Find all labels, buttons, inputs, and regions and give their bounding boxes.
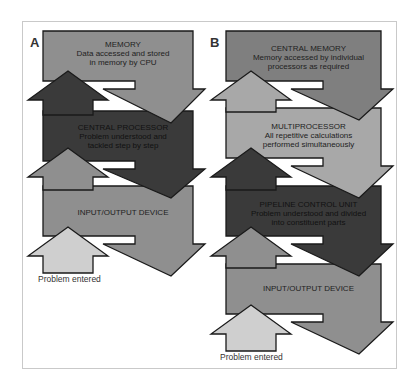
block-description: Problem understood and divided <box>251 209 366 218</box>
panel-a <box>28 31 205 276</box>
block-label: MULTIPROCESSORAll repetitive calculation… <box>263 122 355 149</box>
block-description: performed simultaneously <box>263 140 355 149</box>
block-title: MULTIPROCESSOR <box>263 122 355 131</box>
panel-b <box>211 31 393 354</box>
block-description: Data accessed and stored <box>77 49 170 58</box>
block-label: MEMORYData accessed and storedin memory … <box>77 40 170 67</box>
problem-entered-caption: Problem entered <box>38 274 101 284</box>
block-label: INPUT/OUTPUT DEVICE <box>78 208 169 217</box>
block-title: PIPELINE CONTROL UNIT <box>251 200 366 209</box>
block-description: Memory accessed by individual <box>253 53 364 62</box>
problem-entered-caption: Problem entered <box>220 352 283 362</box>
block-description: into constituent parts <box>251 218 366 227</box>
block-title: CENTRAL PROCESSOR <box>78 123 168 132</box>
block-label: PIPELINE CONTROL UNITProblem understood … <box>251 200 366 227</box>
block-description: All repetitive calculations <box>263 131 355 140</box>
block-description: Problem understood and <box>78 132 168 141</box>
block-description: processors as required <box>253 62 364 71</box>
block-title: CENTRAL MEMORY <box>253 44 364 53</box>
block-title: INPUT/OUTPUT DEVICE <box>263 284 354 293</box>
block-label: INPUT/OUTPUT DEVICE <box>263 284 354 293</box>
block-description: tackled step by step <box>78 141 168 150</box>
block-label: CENTRAL MEMORYMemory accessed by individ… <box>253 44 364 71</box>
block-title: MEMORY <box>77 40 170 49</box>
block-description: in memory by CPU <box>77 58 170 67</box>
panel-label: B <box>210 35 219 50</box>
block-title: INPUT/OUTPUT DEVICE <box>78 208 169 217</box>
block-label: CENTRAL PROCESSORProblem understood andt… <box>78 123 168 150</box>
panel-label: A <box>30 35 39 50</box>
